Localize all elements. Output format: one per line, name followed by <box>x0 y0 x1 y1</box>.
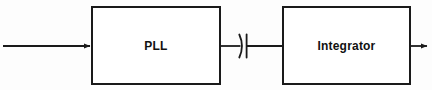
block-pll-label: PLL <box>144 40 167 52</box>
block-integrator: Integrator <box>282 6 411 85</box>
block-diagram: PLL Integrator <box>0 0 432 90</box>
block-pll: PLL <box>91 6 221 85</box>
block-integrator-label: Integrator <box>317 40 375 52</box>
